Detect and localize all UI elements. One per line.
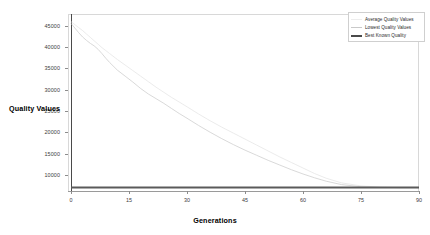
- y-tick-label: 30000: [14, 87, 60, 93]
- legend-label: Best Known Quality: [365, 33, 406, 38]
- y-tick-mark: [65, 154, 68, 155]
- legend-label: Average Quality Values: [365, 17, 414, 22]
- y-tick-label: 20000: [14, 129, 60, 135]
- y-tick-label: 10000: [14, 172, 60, 178]
- x-tick-mark: [419, 191, 420, 194]
- x-tick-mark: [129, 191, 130, 194]
- x-tick-label: 30: [175, 197, 199, 203]
- x-tick-label: 45: [233, 197, 257, 203]
- chart-legend: Average Quality ValuesLowest Quality Val…: [348, 12, 425, 42]
- y-tick-mark: [65, 47, 68, 48]
- y-tick-label: 15000: [14, 151, 60, 157]
- y-tick-mark: [65, 111, 68, 112]
- y-tick-label: 35000: [14, 65, 60, 71]
- y-tick-label: 45000: [14, 23, 60, 29]
- y-tick-mark: [65, 90, 68, 91]
- chart-figure: 1000015000200002500030000350004000045000…: [0, 0, 430, 235]
- legend-item[interactable]: Lowest Quality Values: [351, 23, 422, 31]
- x-tick-mark: [71, 191, 72, 194]
- y-axis-title: Quality Values: [9, 104, 60, 113]
- x-axis-title: Generations: [0, 216, 430, 225]
- x-tick-label: 15: [117, 197, 141, 203]
- y-tick-mark: [65, 68, 68, 69]
- y-tick-mark: [65, 175, 68, 176]
- legend-color-swatch: [351, 33, 362, 38]
- x-tick-mark: [361, 191, 362, 194]
- legend-item[interactable]: Best Known Quality: [351, 31, 422, 39]
- x-tick-label: 75: [349, 197, 373, 203]
- x-tick-mark: [187, 191, 188, 194]
- series-line: [71, 22, 419, 188]
- legend-item[interactable]: Average Quality Values: [351, 15, 422, 23]
- y-tick-mark: [65, 26, 68, 27]
- x-tick-label: 90: [407, 197, 430, 203]
- x-tick-mark: [245, 191, 246, 194]
- x-tick-mark: [303, 191, 304, 194]
- legend-color-swatch: [351, 17, 362, 22]
- legend-label: Lowest Quality Values: [365, 25, 411, 30]
- series-line: [71, 23, 419, 187]
- y-tick-label: 40000: [14, 44, 60, 50]
- y-tick-mark: [65, 132, 68, 133]
- legend-color-swatch: [351, 25, 362, 30]
- x-tick-label: 0: [59, 197, 83, 203]
- x-tick-label: 60: [291, 197, 315, 203]
